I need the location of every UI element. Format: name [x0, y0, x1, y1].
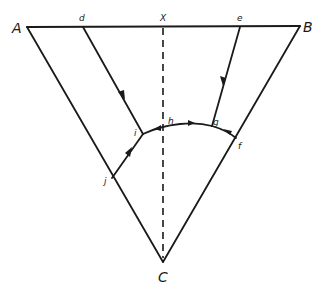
edge-j-i — [112, 134, 143, 178]
edge-b-c — [163, 26, 300, 262]
edge-f-g — [212, 126, 236, 138]
label-a: A — [11, 20, 22, 36]
label-b: B — [303, 19, 313, 35]
label-f: f — [238, 141, 243, 151]
label-h: h — [168, 116, 174, 126]
arrow-h-g-icon — [188, 120, 195, 126]
edge-a-c — [27, 27, 163, 262]
label-g: g — [213, 117, 219, 127]
edge-d-i — [83, 27, 143, 134]
label-i: i — [134, 128, 137, 138]
label-e: e — [237, 13, 243, 23]
curve-i-h-g — [143, 123, 212, 134]
label-x: X — [159, 13, 167, 23]
label-d: d — [79, 13, 85, 23]
label-c: C — [158, 269, 168, 285]
edge-a-b — [27, 26, 300, 27]
triangle-flow-diagram: A B C X d e f g h i j — [0, 0, 323, 294]
arrow-j-i-icon — [125, 147, 132, 157]
edge-e-g — [212, 27, 240, 126]
label-j: j — [102, 176, 107, 186]
